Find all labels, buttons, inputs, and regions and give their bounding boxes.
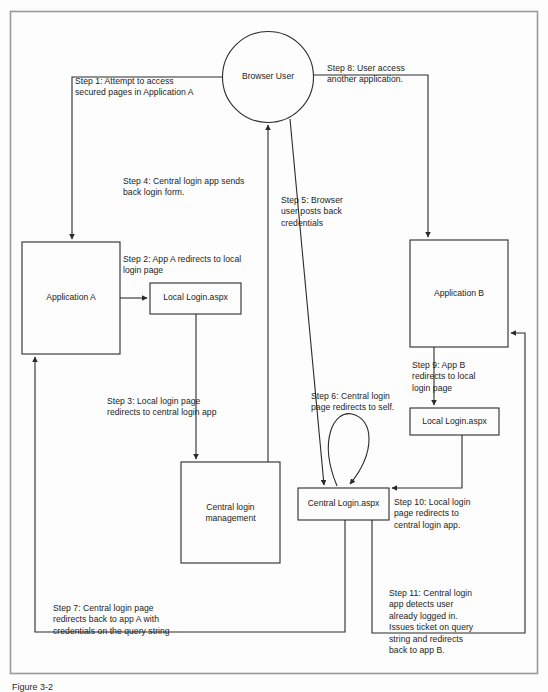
step-label-6: Step 6: Central login page redirects to … [311,391,421,414]
step-label-10: Step 10: Local login page redirects to c… [394,497,499,531]
node-label-local-login-b: Local Login.aspx [411,412,498,432]
step-label-2: Step 2: App A redirects to local login p… [123,254,293,277]
node-label-local-login-a: Local Login.aspx [151,288,240,308]
figure-border [11,12,538,674]
edge-step10 [392,435,462,488]
node-label-central-login-management: Central login management [183,500,278,526]
figure-canvas: Browser User Application A Local Login.a… [0,0,548,692]
step-label-7: Step 7: Central login page redirects bac… [53,603,243,637]
edge-step1 [72,77,222,239]
step-label-9: Step 9: App B redirects to local login p… [412,360,500,394]
node-label-central-login-aspx: Central Login.aspx [299,494,388,514]
node-label-application-a: Application A [24,286,118,310]
step-label-4: Step 4: Central login app sends back log… [123,176,298,199]
step-label-8: Step 8: User access another application. [327,63,442,86]
step-label-3: Step 3: Local login page redirects to ce… [107,396,272,419]
edge-step6 [328,414,369,486]
step-label-11: Step 11: Central login app detects user … [389,588,504,656]
figure-caption: Figure 3-2 [12,682,212,692]
edge-step5 [290,119,324,485]
node-label-application-b: Application B [412,282,506,306]
step-label-5: Step 5: Browser user posts back credenti… [281,195,361,229]
step-label-1: Step 1: Attempt to access secured pages … [75,76,250,99]
